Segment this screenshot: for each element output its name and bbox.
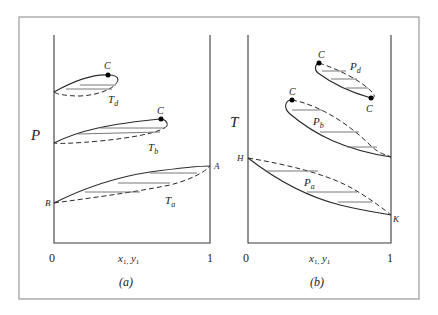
panel-a-x-label: x1, y1 (117, 252, 140, 266)
point-b-label: B (45, 198, 51, 208)
panel-a-y-label: P (30, 127, 40, 143)
tb-tie-line (78, 132, 160, 134)
pd-critical-label-bottom: C (366, 103, 373, 114)
pb-critical-label: C (289, 86, 296, 97)
td-label: Td (108, 93, 119, 108)
pd-critical-point-bottom (369, 96, 374, 101)
curve-pa: Pa H K (236, 153, 400, 224)
pd-critical-label-top: C (318, 49, 325, 60)
panel-a-axes (54, 35, 210, 243)
panel-b: C C Pd C Pb Pa H K T 0 1 (230, 35, 400, 289)
point-h-label: H (236, 153, 244, 163)
tb-critical-label: C (157, 105, 164, 116)
curve-pd: C C Pd (315, 49, 374, 114)
curve-pb: C Pb (286, 86, 391, 157)
panel-b-x-tick-1: 1 (387, 251, 393, 265)
pd-critical-point-top (317, 61, 322, 66)
point-a-label: A (213, 161, 220, 171)
tb-critical-point (159, 117, 164, 122)
pb-dew-curve (292, 100, 391, 157)
panel-b-x-label: x1, y1 (308, 252, 331, 266)
pd-label: Pd (349, 60, 362, 75)
phase-diagram-figure: C Td C Tb Ta B A P 0 1 x1, y1 ( (0, 0, 438, 315)
panel-b-y-label: T (230, 114, 240, 130)
panel-a-caption: (a) (119, 275, 133, 289)
panel-b-axes (248, 35, 391, 243)
curve-td: C Td (54, 60, 119, 108)
pb-critical-point (290, 98, 295, 103)
point-k-label: K (392, 214, 400, 224)
ta-label: Ta (165, 194, 175, 209)
panel-a-x-tick-0: 0 (49, 251, 55, 265)
pa-dew-curve (248, 158, 391, 215)
td-critical-label: C (104, 60, 111, 71)
panel-a: C Td C Tb Ta B A P 0 1 x1, y1 ( (30, 35, 220, 289)
curve-tb: C Tb (54, 105, 167, 156)
pb-label: Pb (312, 115, 324, 130)
ta-dew-curve (54, 166, 210, 203)
figure-frame (19, 17, 419, 299)
tb-label: Tb (148, 141, 158, 156)
panel-b-caption: (b) (310, 275, 324, 289)
panel-a-x-tick-1: 1 (207, 251, 213, 265)
pb-bubble-curve (286, 100, 391, 157)
ta-bubble-curve (54, 166, 210, 203)
pd-bubble-curve (315, 63, 371, 98)
pd-dew-curve (319, 63, 374, 98)
pa-bubble-curve (248, 158, 391, 215)
curve-ta: Ta B A (45, 161, 220, 209)
pa-label: Pa (303, 176, 315, 191)
td-critical-point (106, 73, 111, 78)
panel-b-x-tick-0: 0 (243, 251, 249, 265)
